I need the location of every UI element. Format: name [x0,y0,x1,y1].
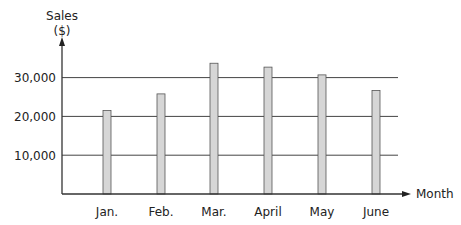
bar-mar [210,63,218,194]
x-tick-label: Jan. [95,205,118,219]
chart-canvas: 10,00020,00030,000 Jan.Feb.Mar.AprilMayJ… [0,0,461,225]
bar-april [264,67,272,194]
y-axis-arrow-icon [59,37,65,46]
x-tick-labels: Jan.Feb.Mar.AprilMayJune [95,205,389,219]
y-tick-labels: 10,00020,00030,000 [14,71,56,163]
bars [103,63,380,194]
x-tick-label: Mar. [201,205,226,219]
gridlines [62,78,398,156]
y-axis-label-line2: ($) [54,24,71,38]
y-tick-label: 20,000 [14,110,56,124]
y-axis-label-line1: Sales [46,9,78,23]
x-tick-label: April [254,205,281,219]
y-tick-label: 10,000 [14,149,56,163]
x-tick-label: Feb. [148,205,173,219]
bar-may [318,75,326,194]
bar-june [372,90,380,194]
bar-feb [157,94,165,194]
sales-bar-chart: 10,00020,00030,000 Jan.Feb.Mar.AprilMayJ… [0,0,461,225]
x-axis-arrow-icon [402,191,411,197]
x-tick-label: June [362,205,389,219]
x-axis-label: Month [416,187,454,201]
x-tick-label: May [310,205,335,219]
y-tick-label: 30,000 [14,71,56,85]
bar-jan [103,111,111,194]
